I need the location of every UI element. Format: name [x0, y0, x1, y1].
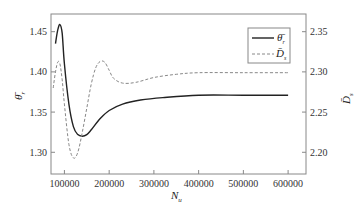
x-axis-ticks: 100000200000300000400000500000600000 — [49, 170, 303, 189]
right-y-tick-label: 2.30 — [310, 66, 328, 77]
x-axis-label: Nu — [170, 189, 182, 204]
left-y-axis-label: θ̄r — [12, 92, 27, 100]
legend: θ̄r D̄s — [248, 28, 290, 63]
x-tick-label: 600000 — [273, 178, 303, 189]
x-tick-label: 500000 — [228, 178, 258, 189]
right-y-tick-label: 2.20 — [310, 147, 328, 158]
left-y-tick-label: 1.45 — [30, 26, 48, 37]
d-s-line — [53, 61, 288, 158]
right-y-tick-label: 2.35 — [310, 26, 328, 37]
x-tick-label: 100000 — [49, 178, 79, 189]
right-y-axis-label: D̄s — [340, 93, 355, 105]
right-y-tick-label: 2.25 — [310, 107, 328, 118]
left-y-tick-label: 1.35 — [30, 107, 48, 118]
x-tick-label: 200000 — [94, 178, 124, 189]
left-y-tick-label: 1.40 — [30, 66, 48, 77]
line-chart: 100000200000300000400000500000600000 1.3… — [0, 0, 358, 217]
x-tick-label: 400000 — [184, 178, 214, 189]
left-y-tick-label: 1.30 — [30, 147, 48, 158]
x-tick-label: 300000 — [139, 178, 169, 189]
